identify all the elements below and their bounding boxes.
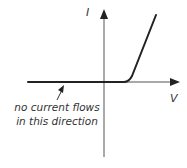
- diode-iv-diagram: I V no current flows in this direction: [0, 0, 187, 168]
- y-axis-label: I: [86, 6, 89, 19]
- x-axis-label: V: [170, 92, 179, 105]
- y-axis-arrowhead-icon: [100, 9, 108, 19]
- annotation-line-2: in this direction: [16, 115, 98, 127]
- x-axis-arrowhead-icon: [170, 78, 180, 86]
- annotation-line-1: no current flows: [14, 101, 100, 113]
- iv-curve: [28, 15, 156, 82]
